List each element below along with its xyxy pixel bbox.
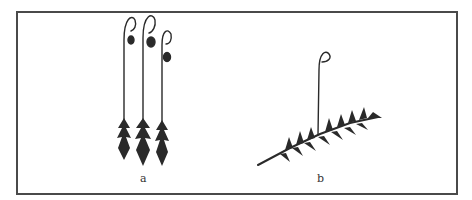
- panel-a-label: a: [140, 172, 147, 185]
- moss-illustration: [0, 0, 472, 200]
- panel-a-leafy-bases: [117, 118, 169, 166]
- panel-b-leaves: [280, 107, 382, 162]
- panel-b-drawing: [258, 52, 378, 165]
- panel-b-label: b: [317, 172, 324, 185]
